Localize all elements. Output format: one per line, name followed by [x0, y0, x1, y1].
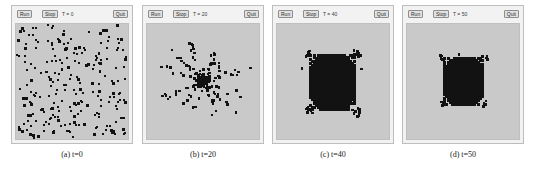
particle	[45, 121, 47, 123]
quit-button[interactable]: Quit	[374, 10, 389, 18]
particle	[203, 79, 206, 82]
particle	[92, 91, 94, 93]
particle	[23, 123, 25, 125]
simulation-canvas[interactable]	[276, 23, 390, 140]
particle	[73, 115, 76, 118]
particle	[77, 78, 80, 81]
particle	[235, 89, 238, 92]
particle	[203, 85, 206, 88]
particle	[213, 80, 216, 83]
stop-button[interactable]: Stop	[173, 10, 189, 18]
particle	[316, 57, 319, 60]
particle	[107, 40, 109, 42]
particle	[24, 55, 26, 57]
particle	[18, 128, 21, 131]
particle	[64, 89, 66, 91]
particle	[61, 68, 63, 70]
particle	[73, 121, 76, 124]
simulation-canvas[interactable]	[15, 23, 129, 140]
particle	[52, 81, 54, 83]
particle	[337, 72, 340, 75]
particle	[182, 102, 185, 105]
run-button[interactable]: Run	[17, 10, 32, 18]
run-button[interactable]: Run	[278, 10, 293, 18]
panel-caption-c: (c) t=40	[272, 150, 394, 159]
particle	[64, 124, 66, 126]
stop-button[interactable]: Stop	[42, 10, 58, 18]
stop-button[interactable]: Stop	[433, 10, 449, 18]
particle	[452, 92, 455, 95]
particle	[30, 79, 33, 82]
particle	[445, 103, 448, 106]
run-button[interactable]: Run	[148, 10, 163, 18]
simulation-canvas[interactable]	[146, 23, 260, 140]
simulation-canvas[interactable]	[406, 23, 520, 140]
run-button[interactable]: Run	[408, 10, 423, 18]
particle	[51, 44, 53, 46]
particle	[200, 78, 203, 81]
particle	[100, 59, 102, 61]
particle	[34, 67, 36, 69]
particle	[201, 75, 204, 78]
particle	[118, 42, 120, 44]
simulation-window-d: Run Stop T = 50 Quit	[402, 5, 524, 144]
quit-button[interactable]: Quit	[504, 10, 519, 18]
particle	[43, 124, 45, 126]
particle	[202, 68, 205, 71]
particle	[206, 89, 209, 92]
particle	[216, 95, 219, 98]
particle	[226, 93, 229, 96]
particle	[115, 121, 117, 123]
particle	[192, 85, 195, 88]
particle	[210, 54, 213, 57]
particle	[123, 66, 125, 68]
particle	[124, 58, 127, 61]
time-label: T = 50	[453, 10, 467, 18]
toolbar-a: Run Stop T = 0 Quit	[12, 6, 132, 21]
particle	[99, 32, 102, 35]
particle	[37, 135, 40, 138]
particle	[21, 27, 24, 30]
particle	[56, 89, 58, 91]
particle	[23, 30, 25, 32]
particle	[87, 63, 90, 66]
time-label: T = 20	[193, 10, 207, 18]
particle	[19, 88, 21, 90]
particle	[236, 74, 239, 77]
particle	[17, 39, 20, 42]
particle	[213, 58, 216, 61]
particle	[28, 34, 30, 36]
particle	[122, 49, 124, 51]
particle	[93, 64, 95, 66]
particle	[30, 103, 33, 106]
particle	[205, 82, 208, 85]
particle	[100, 42, 102, 44]
particle	[19, 30, 22, 33]
particle	[185, 87, 188, 90]
particle	[55, 93, 57, 95]
particle	[100, 99, 102, 101]
particle	[441, 105, 444, 108]
particle	[83, 47, 85, 49]
particle	[179, 57, 182, 60]
particle	[18, 55, 20, 57]
particle	[57, 119, 60, 122]
particle	[106, 125, 108, 127]
particle	[234, 69, 237, 72]
particle	[62, 33, 65, 36]
particle	[58, 110, 60, 112]
particle	[50, 85, 52, 87]
particle	[105, 129, 107, 131]
quit-button[interactable]: Quit	[244, 10, 259, 18]
particle	[69, 123, 71, 125]
particle	[486, 57, 489, 60]
particle	[332, 82, 335, 85]
toolbar-d: Run Stop T = 50 Quit	[403, 6, 523, 21]
particle	[193, 52, 196, 55]
particle	[22, 97, 25, 100]
particle	[35, 39, 37, 41]
particle	[307, 106, 310, 109]
particle	[175, 93, 178, 96]
stop-button[interactable]: Stop	[303, 10, 319, 18]
quit-button[interactable]: Quit	[113, 10, 128, 18]
